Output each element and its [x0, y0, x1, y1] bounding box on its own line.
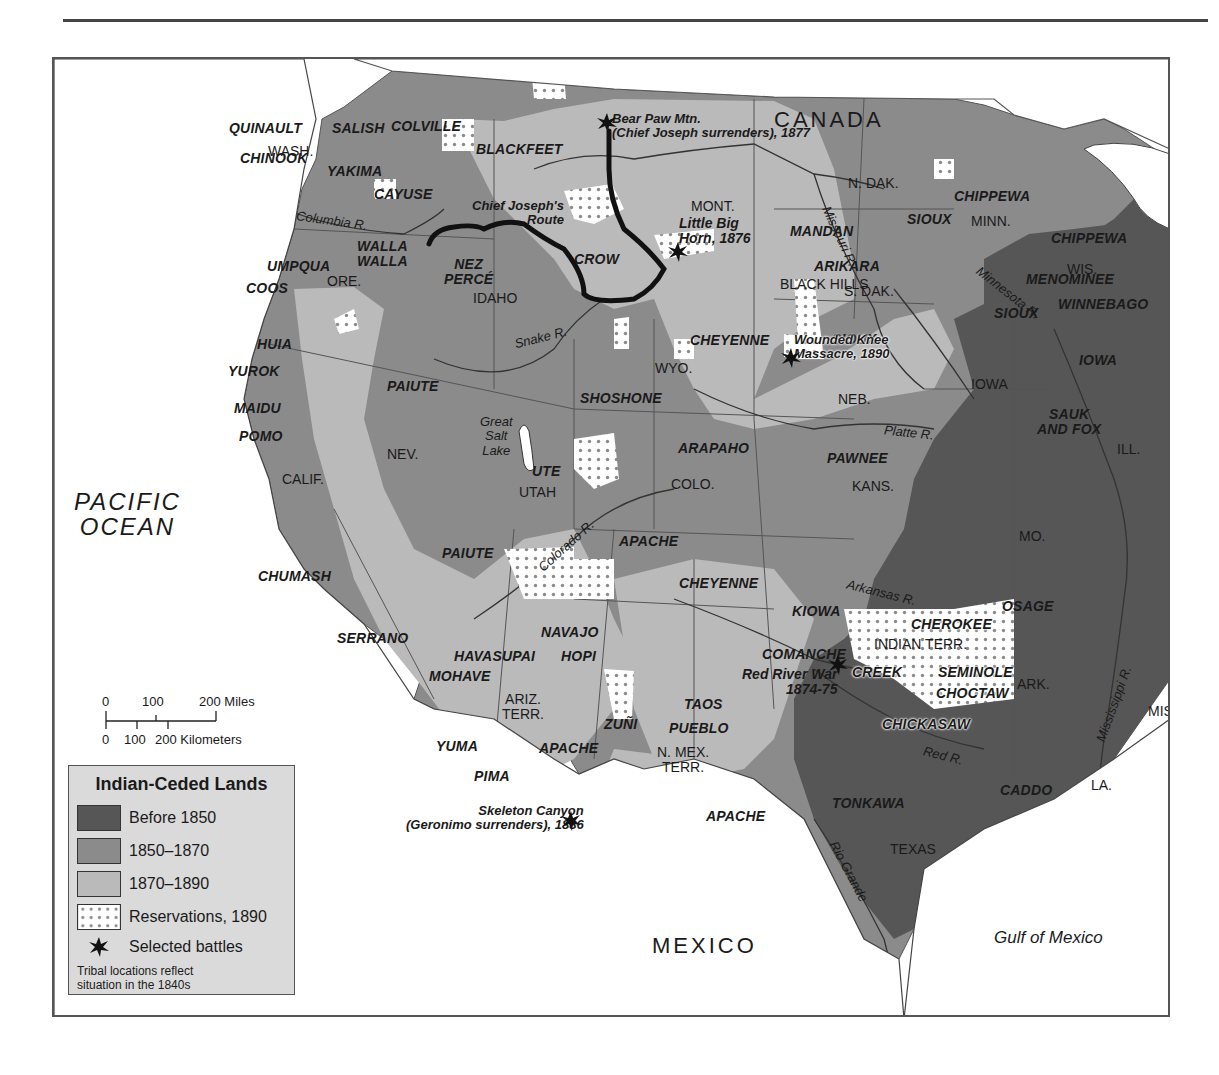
- walla-1: WALLA: [357, 239, 408, 254]
- nmex-1: N. MEX.: [657, 745, 709, 760]
- tribe-creek: CREEK: [852, 665, 902, 679]
- battle-star-icon: [597, 113, 617, 133]
- tribe-sioux-2: SIOUX: [907, 212, 952, 226]
- tribe-ute: UTE: [532, 464, 561, 478]
- state-nmex: N. MEX. TERR.: [657, 745, 709, 776]
- tribe-cayuse: CAYUSE: [374, 187, 433, 201]
- tribe-tonkawa: TONKAWA: [832, 796, 905, 810]
- tribe-navajo: NAVAJO: [541, 625, 598, 639]
- state-ill: ILL.: [1117, 442, 1140, 456]
- tribe-chinook: CHINOOK: [240, 151, 308, 165]
- tribe-arapaho: ARAPAHO: [678, 441, 749, 455]
- tribe-seminole: SEMINOLE: [938, 665, 1013, 679]
- tribe-huia: HUIA: [257, 337, 292, 351]
- battle-skeleton-canyon: Skeleton Canyon (Geronimo surrenders), 1…: [406, 804, 584, 833]
- battle-star-icon: [561, 811, 581, 831]
- legend-title: Indian-Ceded Lands: [77, 774, 286, 795]
- tribe-crow: CROW: [574, 252, 619, 266]
- tribe-serrano: SERRANO: [337, 631, 408, 645]
- ariz-1: ARIZ.: [502, 692, 544, 707]
- state-la: LA.: [1091, 778, 1112, 792]
- tribe-pima: PIMA: [474, 769, 510, 783]
- tribe-blackfeet: BLACKFEET: [476, 142, 563, 156]
- state-mont: MONT.: [691, 199, 735, 213]
- state-ariz: ARIZ. TERR.: [502, 692, 544, 723]
- tribe-chippewa-2: CHIPPEWA: [1051, 231, 1127, 245]
- tribe-pueblo: PUEBLO: [669, 721, 729, 735]
- tribe-menominee: MENOMINEE: [1026, 272, 1114, 286]
- legend-item-reservations: Reservations, 1890: [77, 900, 286, 933]
- rrw-2: 1874-75: [742, 682, 837, 697]
- nez-2: PERCÉ: [444, 272, 493, 287]
- battle-star-icon: [89, 937, 109, 957]
- tribe-paiute-north: PAIUTE: [387, 379, 439, 393]
- state-idaho: IDAHO: [473, 291, 517, 305]
- tribe-chippewa-1: CHIPPEWA: [954, 189, 1030, 203]
- legend-item-before-1850: Before 1850: [77, 801, 286, 834]
- label-chief-joseph-route: Chief Joseph's Route: [472, 199, 564, 228]
- battle-little-big-horn: Little Big Horn, 1876: [679, 216, 751, 247]
- bear-paw-2: (Chief Joseph surrenders), 1877: [612, 126, 810, 140]
- sauk-2: AND FOX: [1037, 422, 1101, 437]
- tribe-taos: TAOS: [684, 697, 723, 711]
- tribe-sauk-and-fox: SAUK AND FOX: [1037, 407, 1101, 436]
- state-colo: COLO.: [671, 477, 715, 491]
- state-nev: NEV.: [387, 447, 418, 461]
- pacific-line-2: OCEAN: [74, 514, 181, 539]
- sc-1: Skeleton Canyon: [406, 804, 584, 818]
- tribe-paiute-south: PAIUTE: [442, 546, 494, 560]
- state-utah: UTAH: [519, 485, 556, 499]
- battle-red-river-war: Red River War 1874-75: [742, 667, 837, 698]
- state-mo: MO.: [1019, 529, 1045, 543]
- sauk-1: SAUK: [1037, 407, 1101, 422]
- swatch-1850-1870: [77, 838, 121, 864]
- tribe-pomo: POMO: [239, 429, 283, 443]
- tribe-yakima: YAKIMA: [327, 164, 382, 178]
- state-ark: ARK.: [1017, 677, 1050, 691]
- tribe-osage: OSAGE: [1002, 599, 1054, 613]
- scale-km-200: 200 Kilometers: [155, 733, 242, 746]
- legend-label: 1870–1890: [129, 875, 209, 893]
- scale-km-0: 0: [102, 733, 109, 746]
- bear-paw-1: Bear Paw Mtn.: [612, 112, 810, 126]
- header-rule: [63, 19, 1208, 22]
- legend-item-1850-1870: 1850–1870: [77, 834, 286, 867]
- lbh-1: Little Big: [679, 216, 751, 231]
- map-frame: CANADA MEXICO PACIFIC OCEAN Gulf of Mexi…: [52, 57, 1170, 1017]
- tribe-yurok: YUROK: [228, 364, 280, 378]
- legend-label: 1850–1870: [129, 842, 209, 860]
- label-mexico: MEXICO: [652, 935, 757, 957]
- tribe-iowa: IOWA: [1079, 353, 1117, 367]
- tribe-nez-perce: NEZ PERCÉ: [444, 257, 493, 286]
- tribe-winnebago: WINNEBAGO: [1058, 297, 1148, 311]
- state-indian-terr: INDIAN TERR.: [874, 637, 967, 651]
- tribe-quinault: QUINAULT: [229, 121, 302, 135]
- sc-2: (Geronimo surrenders), 1886: [406, 818, 584, 832]
- tribe-apache-2: APACHE: [539, 741, 598, 755]
- legend-note-1: Tribal locations reflect: [77, 965, 286, 979]
- state-iowa: IOWA: [971, 377, 1008, 391]
- tribe-apache-1: APACHE: [619, 534, 678, 548]
- tribe-coos: COOS: [246, 281, 288, 295]
- label-great-salt-lake: Great Salt Lake: [480, 415, 513, 458]
- nez-1: NEZ: [444, 257, 493, 272]
- gsl-1: Great: [480, 415, 513, 429]
- label-gulf-of-mexico: Gulf of Mexico: [994, 929, 1103, 946]
- tribe-havasupai: HAVASUPAI: [454, 649, 535, 663]
- route-label-2: Route: [472, 213, 564, 227]
- walla-2: WALLA: [357, 254, 408, 269]
- label-pacific-ocean: PACIFIC OCEAN: [74, 489, 181, 539]
- tribe-shoshone: SHOSHONE: [580, 391, 662, 405]
- tribe-arikara: ARIKARA: [814, 259, 880, 273]
- tribe-mohave: MOHAVE: [429, 669, 491, 683]
- ariz-2: TERR.: [502, 707, 544, 722]
- tribe-choctaw: CHOCTAW: [936, 686, 1009, 700]
- tribe-chumash: CHUMASH: [258, 569, 331, 583]
- tribe-salish: SALISH: [332, 121, 385, 135]
- tribe-apache-3: APACHE: [706, 809, 765, 823]
- tribe-cherokee: CHEROKEE: [911, 617, 992, 631]
- legend-label: Reservations, 1890: [129, 908, 267, 926]
- state-ndak: N. DAK.: [848, 176, 899, 190]
- state-texas: TEXAS: [890, 842, 936, 856]
- gsl-3: Lake: [480, 444, 513, 458]
